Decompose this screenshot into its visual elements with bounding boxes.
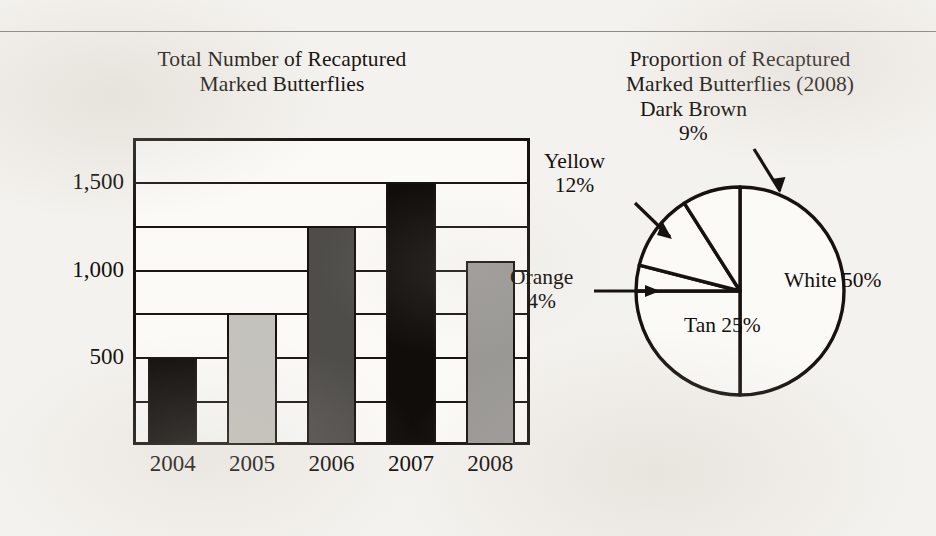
pie-label-white-value: 50% (842, 268, 881, 292)
pie-chart-title-line-2: Marked Butterflies (2008) (552, 72, 928, 97)
bar-2004 (148, 357, 197, 445)
pie-label-tan-value: 25% (721, 313, 760, 337)
pie-chart-svg (552, 105, 928, 505)
bar-2007 (386, 182, 435, 445)
pie-callout-dark-brown: Dark Brown 9% (640, 97, 747, 145)
pie-chart-plot-area: Dark Brown 9% Yellow 12% Orange 4% White… (552, 105, 928, 505)
bar-chart-y-axis: 5001,0001,500 (28, 138, 124, 445)
pie-label-white: White 50% (784, 268, 881, 292)
pie-callout-orange: Orange 4% (510, 265, 573, 313)
pie-label-tan: Tan 25% (684, 313, 761, 337)
bar-chart-x-axis: 20042005200620072008 (133, 451, 530, 485)
bar-2006 (307, 226, 356, 445)
bar-chart-plot-area (133, 138, 530, 445)
x-tick-label-2007: 2007 (371, 451, 450, 477)
y-tick-label-1000: 1,000 (72, 258, 124, 281)
x-tick-label-2005: 2005 (212, 451, 291, 477)
y-tick-label-500: 500 (90, 345, 125, 368)
x-tick-label-2004: 2004 (133, 451, 212, 477)
pie-callout-dark-brown-label: Dark Brown (640, 97, 747, 121)
pie-callout-yellow-value: 12% (544, 173, 605, 197)
bar-chart-title-line-2: Marked Butterflies (28, 72, 536, 97)
pie-chart-figure: Proportion of Recaptured Marked Butterfl… (552, 47, 928, 517)
y-tick-label-1500: 1,500 (72, 170, 124, 193)
x-tick-label-2008: 2008 (451, 451, 530, 477)
pie-callout-dark-brown-value: 9% (640, 121, 747, 145)
pie-label-tan-text: Tan (684, 313, 716, 337)
page-horizontal-rule (0, 31, 936, 32)
gridline-1500 (133, 182, 530, 184)
pie-chart-title: Proportion of Recaptured Marked Butterfl… (552, 47, 928, 97)
bar-chart-title: Total Number of Recaptured Marked Butter… (28, 47, 536, 97)
pie-callout-yellow: Yellow 12% (544, 149, 605, 197)
bar-chart-figure: Total Number of Recaptured Marked Butter… (28, 47, 536, 517)
pie-label-white-text: White (784, 268, 837, 292)
bar-chart-title-line-1: Total Number of Recaptured (28, 47, 536, 72)
bar-2008 (466, 261, 515, 445)
pie-callout-orange-value: 4% (510, 289, 573, 313)
pie-callout-yellow-label: Yellow (544, 149, 605, 173)
pie-slice-tan (636, 291, 740, 395)
pie-callout-orange-label: Orange (510, 265, 573, 289)
bar-2005 (227, 313, 276, 445)
x-tick-label-2006: 2006 (292, 451, 371, 477)
pie-chart-title-line-1: Proportion of Recaptured (552, 47, 928, 72)
